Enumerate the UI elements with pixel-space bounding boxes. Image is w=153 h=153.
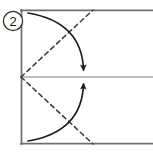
origami-step-diagram: 2 (0, 0, 153, 153)
step-number-label: 2 (9, 14, 16, 29)
diagram-canvas: 2 (0, 0, 153, 153)
step-number-badge: 2 (3, 11, 22, 30)
